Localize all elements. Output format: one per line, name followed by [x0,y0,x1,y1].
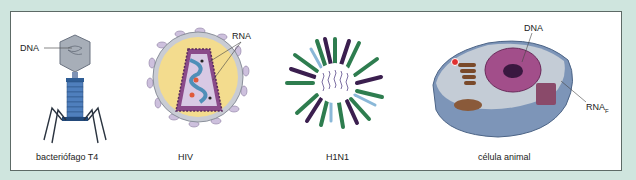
cell-dna-leader-line [520,32,540,64]
cell-rna-leader-line [560,80,590,106]
caption-hiv: HIV [178,152,193,162]
caption-bacteriophage-t4: bacteriófago T4 [36,152,98,162]
hiv-rna-leader-lines [205,40,245,85]
t4-dna-leader-line [44,47,74,51]
animal-cell-illustration [428,35,578,140]
caption-h1n1: H1N1 [326,152,349,162]
h1n1-illustration [285,35,385,130]
caption-animal-cell: célula animal [478,152,531,162]
t4-dna-label: DNA [20,43,39,53]
cell-rna-subscript: F [605,108,609,114]
